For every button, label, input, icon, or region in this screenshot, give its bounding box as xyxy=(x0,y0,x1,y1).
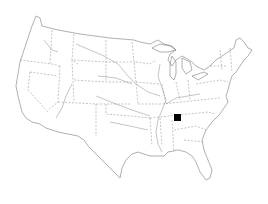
lake-michigan xyxy=(170,56,176,80)
rivers xyxy=(44,40,200,152)
us-outline-map xyxy=(0,0,268,204)
platte-river xyxy=(98,76,132,84)
location-marker xyxy=(174,114,181,121)
ohio-river xyxy=(166,94,200,104)
mississippi-river xyxy=(156,64,166,152)
colorado-river xyxy=(56,84,72,118)
missouri-river xyxy=(76,44,160,96)
arkansas-river xyxy=(96,96,150,116)
us-map xyxy=(0,0,268,204)
lake-huron xyxy=(182,58,192,74)
lake-erie xyxy=(192,72,208,80)
snake-river xyxy=(44,40,58,52)
lake-superior xyxy=(152,44,176,52)
state-borders xyxy=(20,30,232,152)
red-river xyxy=(110,122,148,130)
